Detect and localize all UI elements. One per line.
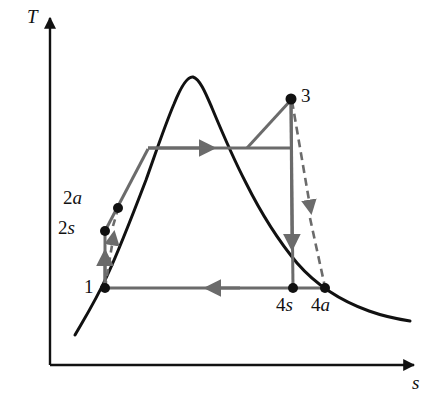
saturation-dome-curve <box>75 77 410 335</box>
state-label-4a: 4a <box>311 294 330 316</box>
cycle-process-group <box>105 100 325 288</box>
state-label-2a: 2a <box>63 187 82 209</box>
state-label-4s-main: 4 <box>276 294 286 315</box>
state-label-3-main: 3 <box>301 85 311 106</box>
state-label-1-main: 1 <box>84 276 94 297</box>
state-point-2s <box>100 226 110 236</box>
state-label-2s-sub: s <box>68 217 75 238</box>
x-axis-label: s <box>412 372 419 394</box>
state-label-4a-main: 4 <box>311 294 321 315</box>
process-superheat-to-3 <box>247 100 291 148</box>
state-label-2s: 2s <box>58 217 75 239</box>
state-point-4s <box>288 283 298 293</box>
axes-group <box>50 18 414 365</box>
state-point-1 <box>100 283 110 293</box>
state-label-3: 3 <box>301 85 311 107</box>
state-label-4a-sub: a <box>321 294 331 315</box>
state-point-4a <box>320 283 330 293</box>
state-label-4s: 4s <box>276 294 293 316</box>
state-label-4s-sub: s <box>286 294 293 315</box>
state-label-2a-sub: a <box>73 187 83 208</box>
state-point-3 <box>286 94 297 105</box>
y-axis-label: T <box>27 6 38 28</box>
state-label-2a-main: 2 <box>63 187 73 208</box>
state-label-2s-main: 2 <box>58 217 68 238</box>
rankine-cycle-ts-diagram: T s 1 2s 2a 3 4s 4a <box>0 0 444 397</box>
process-turbine-ideal-3-4s-rest <box>291 100 293 288</box>
process-turbine-actual-3-4a <box>292 101 311 212</box>
state-point-2a <box>113 203 123 213</box>
state-label-1: 1 <box>84 276 94 298</box>
